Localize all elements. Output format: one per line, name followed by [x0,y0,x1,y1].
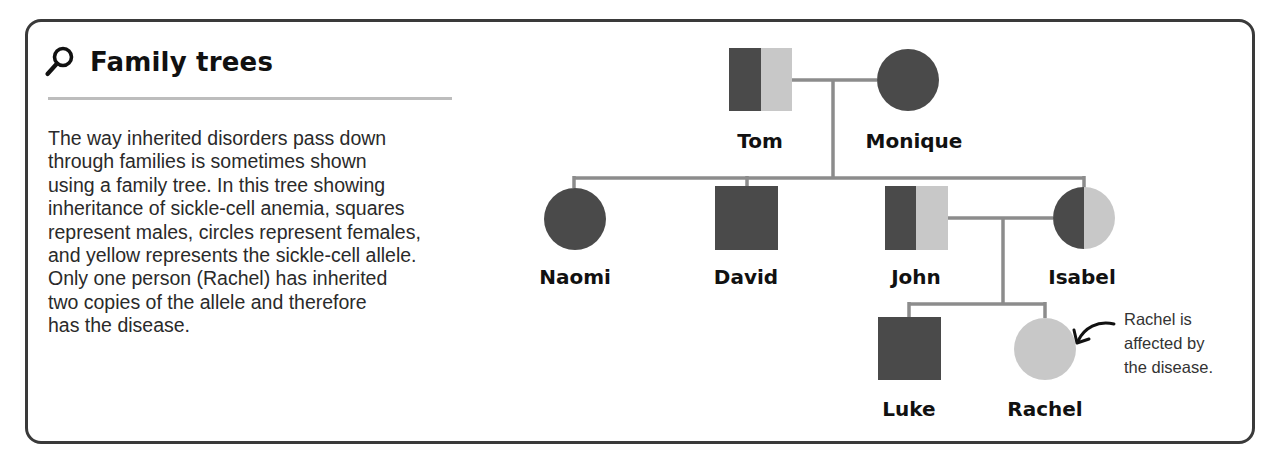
sickle-allele-half [761,48,792,111]
rachel-annotation: Rachel is affected by the disease. [1124,307,1213,379]
sickle-allele-half [1084,187,1115,249]
person-name: Rachel [1007,397,1082,421]
person-rachel: Rachel [1007,318,1082,421]
person-name: David [714,265,778,289]
person-tom: Tom [729,48,792,153]
female-circle-icon [544,188,606,250]
male-square-icon [729,48,761,111]
connector-lines [574,80,1084,318]
female-circle-icon [877,49,939,111]
female-circle-icon [1014,318,1076,380]
male-square-icon [878,317,941,380]
male-square-icon [885,186,916,250]
person-name: John [889,265,941,289]
person-name: Tom [737,129,783,153]
male-square-icon [715,186,778,250]
person-name: Isabel [1048,265,1116,289]
person-name: Luke [882,397,935,421]
annotation-arrow-icon [1074,323,1114,343]
person-name: Naomi [539,265,611,289]
person-name: Monique [866,129,963,153]
family-tree-diagram: Tom Monique Naomi David John Isabel Luke… [0,0,1287,470]
sickle-allele-half [916,186,948,250]
person-naomi: Naomi [539,188,611,289]
person-monique: Monique [866,49,963,153]
person-luke: Luke [878,317,941,421]
person-david: David [714,186,778,289]
female-circle-icon [1053,187,1084,249]
person-isabel: Isabel [1048,187,1116,289]
person-john: John [885,186,948,289]
